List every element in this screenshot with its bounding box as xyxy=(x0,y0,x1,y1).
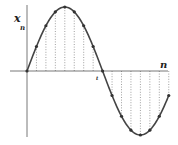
sample-point xyxy=(54,10,57,13)
sample-point xyxy=(120,115,123,118)
sample-point xyxy=(167,94,170,97)
sample-point xyxy=(92,45,95,48)
sine-sample-chart: x n n t xyxy=(0,0,178,145)
y-axis-label-subscript: n xyxy=(20,23,25,32)
sample-point xyxy=(63,5,66,8)
x-axis-label: n xyxy=(160,59,167,70)
sample-point xyxy=(25,69,28,72)
sample-point xyxy=(82,24,85,27)
sample-point xyxy=(129,129,132,132)
sample-point xyxy=(73,10,76,13)
sample-point xyxy=(101,69,104,72)
sample-point xyxy=(158,115,161,118)
zero-crossing-label: t xyxy=(96,75,99,81)
sample-point xyxy=(110,94,113,97)
sample-point xyxy=(148,129,151,132)
sample-point xyxy=(35,45,38,48)
sample-point xyxy=(139,133,142,136)
sample-point xyxy=(44,24,47,27)
